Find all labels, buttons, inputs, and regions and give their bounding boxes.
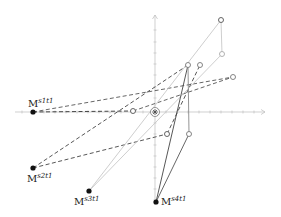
open-point-f <box>131 109 136 114</box>
point-m3 <box>86 188 91 193</box>
label-m3: Ms3t1 <box>74 196 100 207</box>
label-m2: Ms2t1 <box>27 173 53 184</box>
point-m2 <box>30 165 35 170</box>
open-point-c <box>186 63 191 68</box>
vector-segment <box>188 65 189 134</box>
label-m1: Ms1t1 <box>28 98 54 109</box>
vector-segment <box>33 134 167 168</box>
point-m1 <box>30 109 35 114</box>
vector-segment <box>156 65 188 202</box>
open-point-h <box>187 132 192 137</box>
vector-segment <box>33 77 233 112</box>
vector-segment <box>167 65 200 134</box>
point-m4 <box>153 199 158 204</box>
open-point-d <box>198 63 203 68</box>
open-point-b <box>220 52 225 57</box>
vector-segment <box>33 65 188 168</box>
vector-segment <box>221 20 222 54</box>
open-points <box>131 18 236 137</box>
origin-star-icon <box>151 108 160 117</box>
vector-segment <box>156 134 189 202</box>
vector-segment <box>89 54 222 191</box>
open-point-a <box>219 18 224 23</box>
label-m4: Ms4t1 <box>161 196 187 207</box>
open-point-e <box>231 75 236 80</box>
open-point-g <box>165 132 170 137</box>
